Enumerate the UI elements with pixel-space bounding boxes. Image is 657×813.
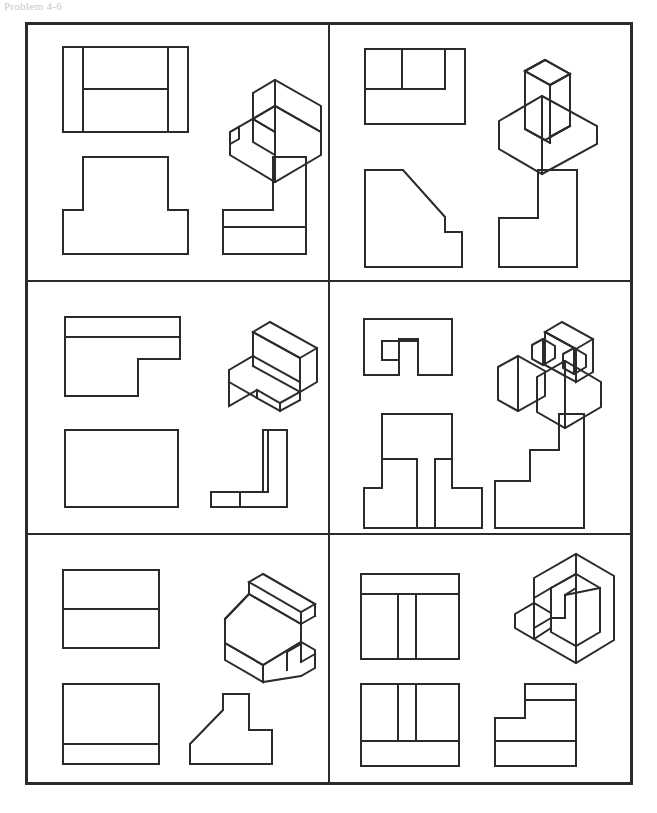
problem-cell-1[interactable] <box>27 24 329 263</box>
problem-cell-2[interactable] <box>329 24 631 263</box>
problem-cell-3[interactable] <box>27 283 329 534</box>
problem-cell-6[interactable] <box>329 536 631 783</box>
problem-cell-5[interactable] <box>27 536 329 783</box>
worksheet-page: Problem 4-6 <box>0 0 657 813</box>
problem-label: Problem 4-6 <box>4 0 62 12</box>
problem-cell-4[interactable] <box>329 283 631 534</box>
